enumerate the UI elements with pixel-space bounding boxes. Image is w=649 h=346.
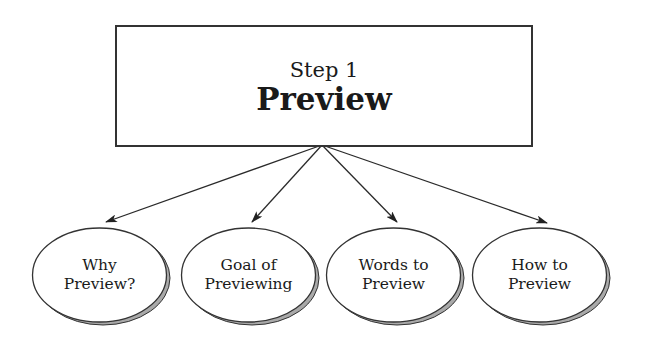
- arrow-to-goal-of-previewing: [252, 145, 322, 222]
- node-text-line2: Previewing: [204, 275, 292, 294]
- node-text-line1: Goal of: [221, 256, 277, 275]
- node-text-line1: Words to: [359, 256, 429, 275]
- arrow-to-words-to-preview: [322, 145, 397, 222]
- node-how-to-preview: How to Preview: [472, 227, 607, 323]
- node-text-line1: How to: [511, 256, 568, 275]
- node-text-line2: Preview?: [64, 275, 135, 294]
- root-step-box: Step 1 Preview: [115, 25, 533, 147]
- node-text-line1: Why: [82, 256, 117, 275]
- connectors: [106, 145, 547, 223]
- arrow-to-why-preview: [106, 145, 322, 222]
- node-words-to-preview: Words to Preview: [326, 227, 461, 323]
- node-text-line2: Preview: [362, 275, 425, 294]
- node-why-preview: Why Preview?: [32, 227, 167, 323]
- node-goal-of-previewing: Goal of Previewing: [181, 227, 316, 323]
- step-label: Step 1: [290, 58, 359, 82]
- node-text-line2: Preview: [508, 275, 571, 294]
- root-title: Preview: [256, 82, 392, 116]
- arrow-to-how-to-preview: [322, 145, 547, 223]
